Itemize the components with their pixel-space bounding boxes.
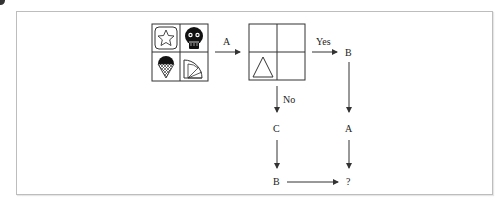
- label-b-bottom: B: [273, 177, 280, 187]
- label-c: C: [273, 124, 280, 134]
- fan-icon: [184, 60, 202, 78]
- ice-cream-icon: [158, 56, 174, 78]
- label-yes: Yes: [316, 37, 331, 47]
- label-a-right: A: [345, 124, 352, 134]
- source-grid: [152, 24, 208, 81]
- flow-diagram: [0, 0, 499, 206]
- skull-icon: [185, 27, 203, 49]
- label-no: No: [283, 95, 295, 105]
- label-a-arrow: A: [223, 37, 230, 47]
- star-icon: [155, 27, 177, 49]
- triangle-icon: [253, 57, 273, 77]
- label-question: ?: [346, 177, 350, 187]
- target-grid: [249, 24, 305, 80]
- label-b-top: B: [345, 48, 352, 58]
